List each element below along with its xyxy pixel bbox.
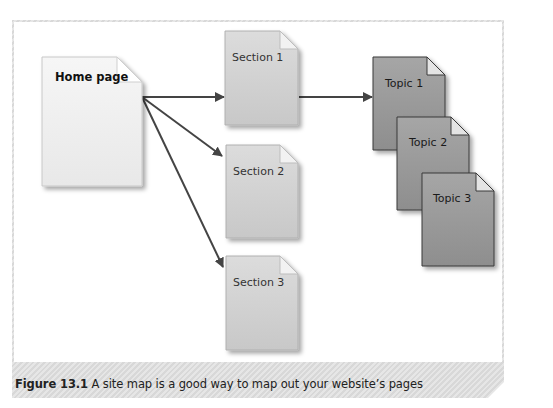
document-icon xyxy=(226,145,298,238)
home-page-label: Home page xyxy=(55,70,128,84)
section-2-document: Section 2 xyxy=(226,145,298,238)
figure-caption-text: A site map is a good way to map out your… xyxy=(92,377,423,391)
figure-caption: Figure 13.1 A site map is a good way to … xyxy=(15,377,423,391)
document-icon xyxy=(225,31,298,125)
topic-1-label: Topic 1 xyxy=(385,77,423,90)
topic-3-label: Topic 3 xyxy=(433,192,471,205)
topic-2-label: Topic 2 xyxy=(409,136,447,149)
arrow-home-to-section-2 xyxy=(142,97,222,156)
section-3-label: Section 3 xyxy=(233,276,284,289)
section-1-document: Section 1 xyxy=(225,31,298,125)
section-3-document: Section 3 xyxy=(226,256,298,350)
document-icon xyxy=(226,256,298,350)
section-2-label: Section 2 xyxy=(233,165,284,178)
home-page-document: Home page xyxy=(42,57,142,186)
arrow-home-to-section-3 xyxy=(142,97,223,267)
figure-number: Figure 13.1 xyxy=(15,377,88,391)
topic-3-document: Topic 3 xyxy=(422,173,494,266)
section-1-label: Section 1 xyxy=(232,51,283,64)
document-icon xyxy=(422,173,494,266)
